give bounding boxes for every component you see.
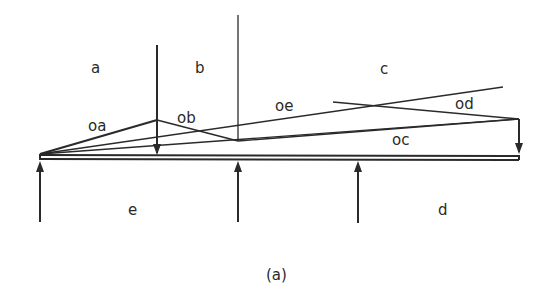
load-arrow-2 bbox=[515, 119, 523, 154]
ray-label-od: od bbox=[455, 95, 474, 113]
ray-label-oa: oa bbox=[88, 117, 106, 135]
space-label-c: c bbox=[380, 60, 388, 78]
space-label-a: a bbox=[91, 59, 100, 77]
ray-label-ob: ob bbox=[177, 109, 196, 127]
ray-label-oc: oc bbox=[392, 131, 409, 149]
space-label-e: e bbox=[128, 201, 137, 219]
figure-caption: (a) bbox=[266, 266, 287, 284]
reaction-arrow-middle bbox=[234, 161, 242, 222]
space-label-b: b bbox=[195, 59, 205, 77]
ray-label-oe: oe bbox=[275, 97, 293, 115]
beam bbox=[40, 154, 519, 160]
funicular-polygon-diagram: a b c e d oa ob oe od oc (a) bbox=[0, 0, 544, 298]
reaction-arrow-left bbox=[36, 161, 44, 222]
reaction-arrow-right bbox=[354, 161, 362, 223]
load-arrow-1 bbox=[153, 45, 161, 155]
space-label-d: d bbox=[438, 201, 448, 219]
